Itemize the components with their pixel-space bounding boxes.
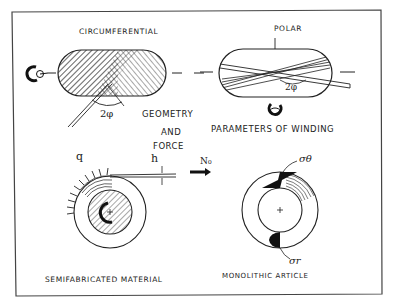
and-caption: AND (161, 128, 181, 137)
sigma-r-label: σr (289, 256, 301, 266)
circumferential-label: CIRCUMFERENTIAL (79, 28, 158, 36)
rotation-arrow-icon (27, 67, 48, 81)
force-caption: FORCE (153, 142, 184, 151)
semifabricated-material-label: SEMIFABRICATED MATERIAL (45, 276, 163, 284)
load-label-q: q (76, 151, 83, 162)
diagram-drawing (0, 0, 393, 302)
angle-label-circumferential: 2φ (100, 109, 113, 119)
n0-label: N₀ (200, 157, 211, 166)
monolithic-article-label: MONOLITHIC ARTICLE (222, 273, 308, 280)
monolithic-drawing (242, 161, 318, 259)
polar-capsule (200, 38, 355, 97)
semifabricated-drawing (67, 166, 176, 248)
sigma-theta-label: σθ (299, 154, 312, 164)
frame (12, 10, 382, 296)
angle-label-polar: 2φ (285, 83, 297, 92)
parameters-of-winding-caption: PARAMETERS OF WINDING (211, 125, 334, 134)
winding-diagram: CIRCUMFERENTIAL POLAR 2φ 2φ GEOMETRY AND… (0, 0, 393, 302)
thickness-label-h: h (151, 153, 158, 164)
rotation-arrow-icon (269, 104, 281, 114)
transition-arrow (190, 168, 211, 176)
polar-label: POLAR (274, 25, 302, 33)
geometry-caption: GEOMETRY (142, 110, 193, 119)
